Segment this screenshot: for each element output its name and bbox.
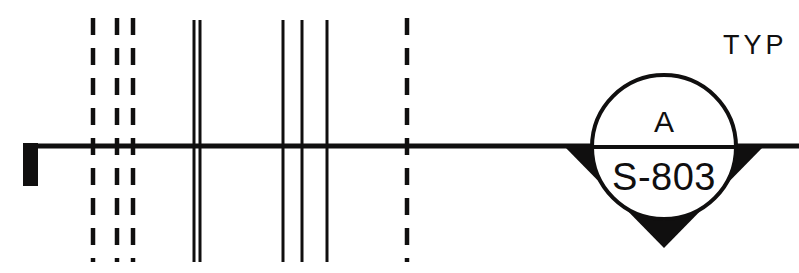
drawing-vector-surface: A S-803 TYP — [0, 0, 799, 273]
cut-line-left-tail — [23, 143, 38, 186]
grid-lines-group — [93, 18, 407, 262]
section-callout-drawing: A S-803 TYP — [0, 0, 799, 273]
typ-annotation-label: TYP — [723, 30, 788, 60]
callout-sheet-number: S-803 — [612, 156, 716, 198]
callout-detail-letter: A — [654, 105, 674, 138]
